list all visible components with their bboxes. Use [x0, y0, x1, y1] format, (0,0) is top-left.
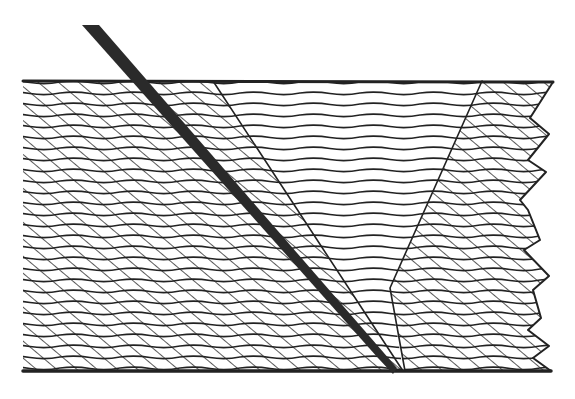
blade-cutting-diagram: [0, 0, 575, 399]
block-top-edge: [23, 81, 553, 82]
